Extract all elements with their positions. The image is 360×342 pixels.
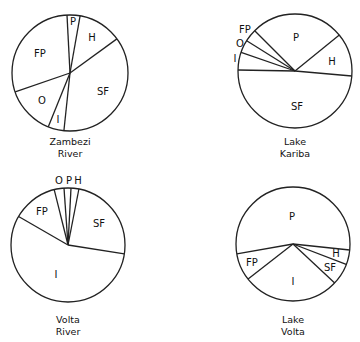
slice-label-o: O xyxy=(55,175,63,186)
pie-zambezi-river: PHSFIOFP xyxy=(12,15,128,131)
slice-label-h: H xyxy=(332,248,340,259)
slice-label-sf: SF xyxy=(291,101,303,112)
slice-label-o: O xyxy=(38,95,46,106)
caption-line: River xyxy=(30,148,110,160)
caption-zambezi-river: Zambezi River xyxy=(30,136,110,160)
slice-label-h: H xyxy=(74,175,82,186)
caption-line: Kariba xyxy=(255,148,335,160)
caption-line: River xyxy=(28,326,108,338)
caption-line: Lake xyxy=(255,136,335,148)
slice-label-sf: SF xyxy=(324,262,336,273)
slice-label-i: I xyxy=(292,276,295,287)
slice-label-fp: FP xyxy=(246,257,258,268)
slice-label-i: I xyxy=(234,53,237,64)
slice-label-p: P xyxy=(293,32,299,43)
caption-lake-kariba: Lake Kariba xyxy=(255,136,335,160)
caption-line: Lake xyxy=(253,314,333,326)
slice-label-h: H xyxy=(328,56,336,67)
slice-label-fp: FP xyxy=(239,24,251,35)
slice-label-sf: SF xyxy=(97,86,109,97)
pie-volta-river: OPHSFIFP xyxy=(11,175,125,302)
caption-line: Zambezi xyxy=(30,136,110,148)
caption-lake-volta: Lake Volta xyxy=(253,314,333,338)
slice-label-fp: FP xyxy=(36,206,48,217)
caption-line: Volta xyxy=(253,326,333,338)
slice-label-i: I xyxy=(55,269,58,280)
slice-label-p: P xyxy=(70,16,76,27)
slice-label-fp: FP xyxy=(34,48,46,59)
slice-label-o: O xyxy=(236,38,244,49)
slice-label-h: H xyxy=(88,32,96,43)
pie-lake-volta: PHSFIFP xyxy=(236,187,350,301)
slice-label-p: P xyxy=(66,175,72,186)
caption-volta-river: Volta River xyxy=(28,314,108,338)
caption-line: Volta xyxy=(28,314,108,326)
pie-chart-canvas: PHSFIOFPPHSFIOFPOPHSFIFPPHSFIFP xyxy=(0,0,360,342)
slice-label-sf: SF xyxy=(93,218,105,229)
slice-label-p: P xyxy=(289,211,295,222)
pie-lake-kariba: PHSFIOFP xyxy=(234,14,352,128)
slice-label-i: I xyxy=(57,114,60,125)
